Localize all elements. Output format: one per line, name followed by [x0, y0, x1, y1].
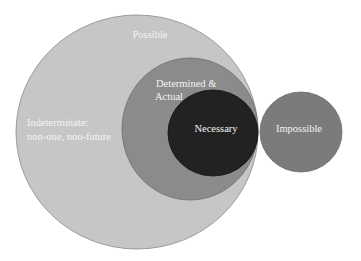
- impossible-label: Impossible: [276, 123, 322, 134]
- modal-venn-diagram: Possible Indeterminate: non-one, non-fut…: [0, 0, 361, 261]
- possible-label: Possible: [132, 29, 167, 40]
- determined-label-line2: Actual: [155, 91, 183, 102]
- indeterminate-label-line2: non-one, non-future: [27, 131, 111, 142]
- indeterminate-label-line1: Indeterminate:: [27, 117, 88, 128]
- necessary-label: Necessary: [194, 123, 238, 134]
- determined-label-line1: Determined &: [156, 78, 216, 89]
